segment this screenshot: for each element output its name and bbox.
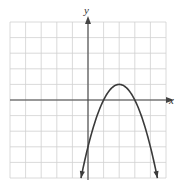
x-axis-label: x bbox=[168, 94, 174, 106]
y-axis-label: y bbox=[83, 4, 89, 16]
y-axis-arrow-icon bbox=[85, 16, 91, 24]
parabola-graph: x y bbox=[0, 0, 177, 183]
axes: x y bbox=[10, 4, 174, 180]
